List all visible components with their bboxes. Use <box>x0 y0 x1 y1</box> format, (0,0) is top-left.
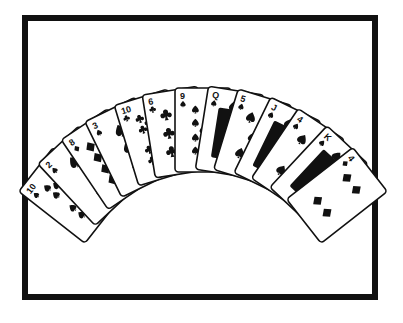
illustration-canvas: 102831069Q5J4K4 <box>0 0 403 323</box>
picture-border <box>22 15 378 300</box>
